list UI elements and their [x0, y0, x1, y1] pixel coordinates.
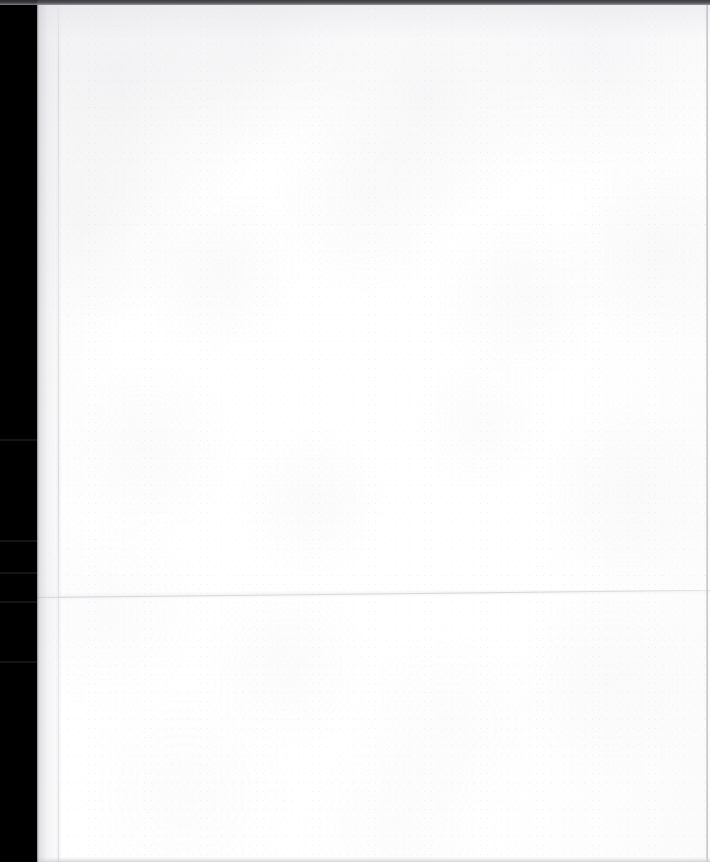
gutter-seam-1	[0, 439, 37, 441]
gutter-seam-4	[0, 601, 37, 603]
scanner-gutter	[0, 0, 37, 862]
scanned-page	[0, 0, 710, 862]
page-body-text	[70, 30, 680, 830]
page-right-edge	[706, 4, 708, 862]
page-bottom-edge	[37, 857, 710, 862]
top-scan-band	[0, 0, 710, 5]
vertical-crease	[58, 5, 59, 862]
gutter-seam-3	[0, 572, 37, 574]
gutter-seam-5	[0, 661, 37, 663]
gutter-seam-2	[0, 540, 37, 542]
